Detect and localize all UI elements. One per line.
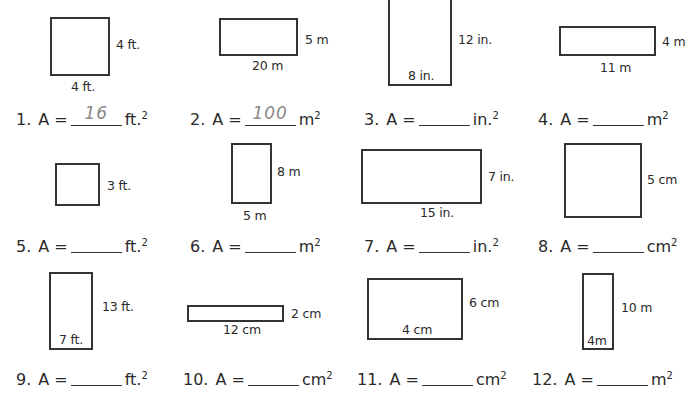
unit-text: ft.	[125, 370, 142, 389]
width-label: 4m	[587, 334, 607, 348]
unit-text: in.	[473, 110, 493, 129]
height-label: 2 cm	[291, 307, 321, 321]
height-label: 3 ft.	[107, 179, 131, 193]
area-label: A =	[560, 110, 589, 130]
problem-number: 4.	[538, 110, 553, 130]
problem-number: 2.	[190, 110, 205, 130]
answer-row: 10. A = cm2	[183, 366, 333, 390]
unit-exponent: 2	[492, 237, 498, 248]
width-label: 4 ft.	[71, 80, 95, 94]
answer-input[interactable]	[593, 108, 644, 126]
unit-label: in.2	[473, 106, 499, 130]
unit-text: ft.	[125, 110, 142, 129]
unit-label: ft.2	[125, 233, 148, 257]
answer-row: 9. A = ft.2	[16, 366, 148, 390]
unit-exponent: 2	[492, 110, 498, 121]
handwritten-answer: 16	[71, 103, 122, 123]
problem-number: 11.	[357, 370, 382, 390]
unit-text: cm	[302, 370, 326, 389]
answer-row: 3. A = in.2	[364, 106, 499, 130]
unit-text: m	[299, 110, 315, 129]
unit-exponent: 2	[141, 110, 147, 121]
unit-exponent: 2	[141, 370, 147, 381]
height-label: 8 m	[277, 165, 301, 179]
unit-label: in.2	[473, 233, 499, 257]
unit-text: m	[647, 110, 663, 129]
area-label: A =	[38, 370, 67, 390]
answer-input[interactable]	[422, 368, 473, 386]
unit-exponent: 2	[141, 237, 147, 248]
answer-row: 1. A = 16 ft.2	[16, 106, 148, 130]
area-label: A =	[386, 237, 415, 257]
answer-input[interactable]	[245, 235, 296, 253]
problem-number: 10.	[183, 370, 208, 390]
area-label: A =	[386, 110, 415, 130]
problem-number: 7.	[364, 237, 379, 257]
unit-label: ft.2	[125, 366, 148, 390]
height-label: 5 m	[305, 33, 329, 47]
area-label: A =	[389, 370, 418, 390]
problem-number: 3.	[364, 110, 379, 130]
height-label: 4 ft.	[116, 38, 140, 52]
area-label: A =	[38, 237, 67, 257]
answer-input[interactable]: 16	[71, 108, 122, 126]
problem-number: 6.	[190, 237, 205, 257]
problem-number: 12.	[532, 370, 557, 390]
unit-exponent: 2	[666, 370, 672, 381]
height-label: 6 cm	[469, 296, 499, 310]
answer-input[interactable]: 100	[245, 108, 296, 126]
rectangle-shape	[187, 305, 284, 322]
height-label: 10 m	[621, 301, 652, 315]
unit-text: m	[299, 237, 315, 256]
unit-label: m2	[647, 106, 669, 130]
unit-text: in.	[473, 237, 493, 256]
answer-row: 6. A = m2	[190, 233, 321, 257]
unit-exponent: 2	[326, 370, 332, 381]
unit-label: cm2	[476, 366, 507, 390]
unit-label: cm2	[647, 233, 678, 257]
area-label: A =	[38, 110, 67, 130]
width-label: 20 m	[252, 59, 283, 73]
rectangle-shape	[231, 143, 272, 204]
area-label: A =	[212, 110, 241, 130]
height-label: 7 in.	[488, 170, 514, 184]
answer-input[interactable]	[71, 368, 122, 386]
width-label: 7 ft.	[59, 333, 83, 347]
answer-input[interactable]	[419, 235, 470, 253]
area-label: A =	[560, 237, 589, 257]
problem-number: 5.	[16, 237, 31, 257]
unit-exponent: 2	[662, 110, 668, 121]
problem-number: 1.	[16, 110, 31, 130]
answer-input[interactable]	[419, 108, 470, 126]
answer-row: 2. A = 100 m2	[190, 106, 321, 130]
rectangle-shape	[361, 149, 482, 204]
width-label: 15 in.	[420, 206, 454, 220]
unit-exponent: 2	[314, 110, 320, 121]
rectangle-shape	[219, 18, 298, 56]
unit-text: ft.	[125, 237, 142, 256]
area-label: A =	[564, 370, 593, 390]
unit-exponent: 2	[671, 237, 677, 248]
answer-input[interactable]	[248, 368, 299, 386]
area-label: A =	[215, 370, 244, 390]
height-label: 12 in.	[458, 33, 492, 47]
area-label: A =	[212, 237, 241, 257]
square-shape	[55, 163, 100, 206]
width-label: 8 in.	[408, 69, 434, 83]
unit-label: m2	[299, 106, 321, 130]
answer-row: 7. A = in.2	[364, 233, 499, 257]
height-label: 5 cm	[647, 173, 677, 187]
width-label: 11 m	[600, 61, 631, 75]
answer-input[interactable]	[71, 235, 122, 253]
problem-number: 9.	[16, 370, 31, 390]
answer-input[interactable]	[593, 235, 644, 253]
answer-input[interactable]	[597, 368, 648, 386]
answer-row: 12. A = m2	[532, 366, 673, 390]
answer-row: 4. A = m2	[538, 106, 669, 130]
unit-label: ft.2	[125, 106, 148, 130]
unit-label: m2	[651, 366, 673, 390]
answer-row: 5. A = ft.2	[16, 233, 148, 257]
height-label: 4 m	[662, 35, 686, 49]
unit-text: m	[651, 370, 667, 389]
answer-row: 11. A = cm2	[357, 366, 507, 390]
